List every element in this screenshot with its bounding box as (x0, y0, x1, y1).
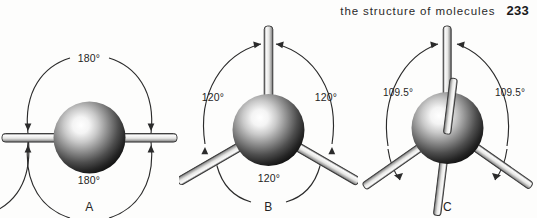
arrowhead-lower-left (394, 173, 403, 180)
angle-label-right: 120° (315, 91, 338, 103)
running-head: the structure of molecules 233 (340, 3, 529, 18)
arrowhead-bottom-right (148, 145, 155, 152)
panel-a-drawing (0, 18, 179, 218)
figure-page: the structure of molecules 233 (0, 0, 537, 218)
angle-label-top: 180° (78, 52, 101, 64)
arrowhead-lower-right (492, 173, 501, 180)
central-atom-sphere (233, 94, 305, 166)
central-atom-sphere (54, 102, 126, 174)
panel-c-tetrahedral: 109.5° 109.5° C (358, 18, 537, 218)
angle-label-left: 109.5° (383, 87, 413, 98)
angle-label-left: 120° (202, 91, 225, 103)
panel-letter-b: B (179, 200, 358, 214)
panel-b-drawing (179, 18, 358, 218)
arrowhead-top-left (25, 124, 32, 131)
panel-letter-a: A (0, 200, 179, 214)
arrowhead-bottom-left (25, 145, 32, 152)
panel-c-drawing (358, 18, 537, 218)
panel-letter-c: C (358, 200, 537, 214)
panel-a-linear: 180° 180° A (0, 18, 179, 218)
arrowhead-lower-left-tip (201, 147, 208, 154)
page-number: 233 (506, 3, 529, 18)
running-head-title: the structure of molecules (340, 5, 495, 17)
angle-label-bottom: 120° (258, 172, 281, 184)
arc-bottom-right-seg (286, 166, 320, 202)
arrowhead-lower-right-tip (328, 147, 335, 154)
angle-label-bottom: 180° (78, 174, 101, 186)
arc-bottom-left-seg (217, 166, 251, 202)
angle-label-right: 109.5° (495, 87, 525, 98)
panel-b-trigonal-planar: 120° 120° 120° B (179, 18, 358, 218)
arrowhead-top-right (148, 124, 155, 131)
